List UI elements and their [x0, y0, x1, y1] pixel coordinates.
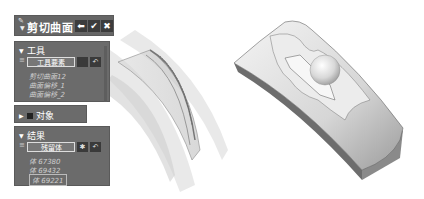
back-button[interactable]: ⬅: [75, 20, 87, 32]
result-list-item-selected[interactable]: 体 69221: [29, 174, 67, 186]
expand-arrow-icon: ▼: [19, 132, 24, 139]
dialog-titlebar[interactable]: ✎ ▼ 剪切曲面 ⬅ ✔ ✖: [14, 15, 114, 36]
checkbox[interactable]: [27, 113, 33, 119]
objects-header-label: 对象: [36, 111, 54, 121]
settings-icon[interactable]: ✱: [77, 142, 88, 152]
collapse-arrow-icon[interactable]: ▼: [20, 24, 25, 31]
cancel-button[interactable]: ✖: [101, 20, 113, 32]
tools-section: ▼工具 ≡ 工具要素 ↶ 剪切曲面12 曲面偏移_1 曲面偏移_2: [14, 41, 110, 102]
result-section: ▼结果 ≡ 残留体 ✱ ↶ 体 67380 体 69432 体 69221: [14, 126, 110, 186]
objects-section[interactable]: ▶对象: [14, 105, 87, 123]
list-handle-icon: ≡: [19, 56, 25, 64]
expand-arrow-icon: ▼: [19, 47, 24, 54]
ok-button[interactable]: ✔: [88, 20, 100, 32]
dialog-title: 剪切曲面: [27, 19, 73, 35]
expand-arrow-icon: ▶: [19, 112, 24, 119]
undo-icon[interactable]: ↶: [90, 142, 101, 152]
remaining-body-field[interactable]: 残留体: [27, 142, 75, 152]
objects-section-header[interactable]: ▶对象: [19, 109, 54, 122]
tool-list-item[interactable]: 曲面偏移_2: [29, 89, 65, 99]
select-button[interactable]: [77, 57, 88, 67]
undo-icon[interactable]: ↶: [90, 57, 101, 67]
scrollbar[interactable]: [104, 46, 107, 102]
list-handle-icon: ≡: [19, 141, 25, 149]
result-header-label: 结果: [27, 131, 45, 141]
tools-header-label: 工具: [27, 46, 45, 56]
tool-element-field[interactable]: 工具要素: [27, 57, 75, 67]
